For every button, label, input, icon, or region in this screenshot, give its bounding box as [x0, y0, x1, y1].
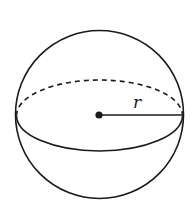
equator-back-arc [17, 80, 183, 115]
sphere-diagram: r [0, 0, 195, 213]
radius-label: r [133, 92, 142, 112]
center-point [95, 111, 102, 118]
equator-front-arc [17, 116, 183, 151]
